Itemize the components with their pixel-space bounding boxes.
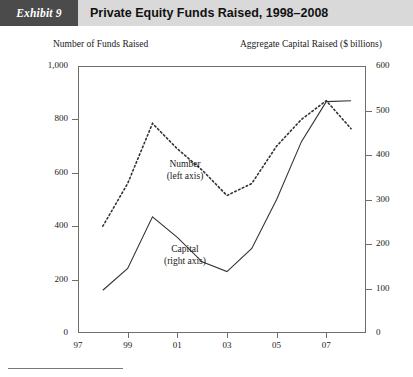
annotation-capital-line1: Capital <box>171 244 198 254</box>
footnote-separator <box>8 368 123 369</box>
annotation-number-line2: (left axis) <box>167 171 204 181</box>
annotation-number: Number (left axis) <box>140 158 230 182</box>
series-lines <box>0 0 413 377</box>
chart-container: 02004006008001,000 0100200300400500600 9… <box>0 0 413 377</box>
annotation-capital: Capital (right axis) <box>140 243 230 267</box>
annotation-capital-line2: (right axis) <box>164 256 206 266</box>
annotation-number-line1: Number <box>169 159 200 169</box>
